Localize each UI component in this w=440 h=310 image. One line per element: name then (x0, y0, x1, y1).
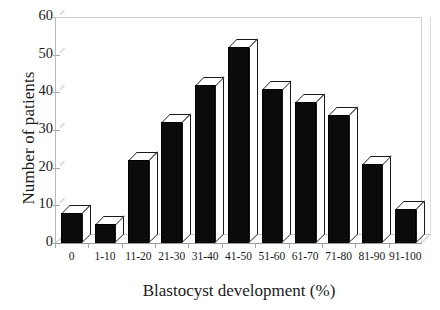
bar-side-face (149, 151, 158, 243)
bar (95, 224, 116, 243)
x-axis-tick-mark (188, 243, 189, 248)
bar-front-face (61, 213, 82, 243)
x-axis-tick-label: 71-80 (322, 250, 355, 262)
x-axis-tick-mark (122, 243, 123, 248)
bar-front-face (228, 47, 249, 243)
x-axis-tick-mark (88, 243, 89, 248)
y-axis-tick-label: 40 (7, 82, 53, 99)
y-axis-tick-label: 50 (7, 45, 53, 62)
x-axis-tick-label: 51-60 (255, 250, 288, 262)
bar-front-face (195, 85, 216, 243)
bar-front-face (328, 115, 349, 243)
bar-side-face (215, 76, 224, 243)
bar (228, 47, 249, 243)
bar (362, 164, 383, 243)
x-axis-tick-mark (289, 243, 290, 248)
plot-back-wall-edge (430, 17, 431, 235)
bar-front-face (262, 89, 283, 243)
x-axis-tick-label: 91-100 (389, 250, 422, 262)
bar (262, 89, 283, 243)
y-axis-tick-label: 10 (7, 195, 53, 212)
bar-front-face (161, 122, 182, 243)
bar-front-face (128, 160, 149, 243)
y-axis-tick-label: 20 (7, 158, 53, 175)
bar-chart-figure: Number of patients 0102030405060 01-1011… (0, 0, 440, 310)
x-axis-tick-label: 41-50 (222, 250, 255, 262)
bar-side-face (349, 106, 358, 243)
bar-side-face (282, 80, 291, 243)
x-axis-tick-label: 21-30 (155, 250, 188, 262)
y-axis-tick-group: 0102030405060 (0, 0, 53, 310)
x-axis-tick-label: 81-90 (355, 250, 388, 262)
x-axis-tick-label: 11-20 (122, 250, 155, 262)
x-axis-tick-label: 31-40 (188, 250, 221, 262)
y-axis-tick-label: 60 (7, 7, 53, 24)
bar-front-face (362, 164, 383, 243)
x-axis-tick-group: 01-1011-2021-3031-4041-5051-6061-7071-80… (55, 250, 422, 268)
x-axis-tick-mark (55, 243, 56, 248)
x-axis-tick-label: 0 (55, 250, 88, 262)
bar-side-face (382, 155, 391, 243)
x-axis-tick-mark (322, 243, 323, 248)
bar (328, 115, 349, 243)
bar-series (55, 17, 422, 243)
bar (395, 209, 416, 243)
x-axis-title: Blastocyst development (%) (40, 281, 438, 301)
x-axis-tick-label: 1-10 (88, 250, 121, 262)
bar (128, 160, 149, 243)
bar-front-face (95, 224, 116, 243)
x-axis-tick-mark (389, 243, 390, 248)
bar-side-face (316, 93, 325, 243)
bar-side-face (182, 114, 191, 243)
x-axis-tick-label: 61-70 (289, 250, 322, 262)
y-axis-tick-label: 0 (7, 233, 53, 250)
bar-side-face (249, 38, 258, 243)
bar (195, 85, 216, 243)
x-axis-tick-mark (222, 243, 223, 248)
bar-front-face (295, 102, 316, 243)
bar-front-face (395, 209, 416, 243)
y-axis-tick-label: 30 (7, 120, 53, 137)
bar (295, 102, 316, 243)
bar (61, 213, 82, 243)
x-axis-tick-mark (155, 243, 156, 248)
bar (161, 122, 182, 243)
x-axis-tick-mark (355, 243, 356, 248)
x-axis-tick-mark (255, 243, 256, 248)
x-axis-baseline (55, 243, 422, 244)
